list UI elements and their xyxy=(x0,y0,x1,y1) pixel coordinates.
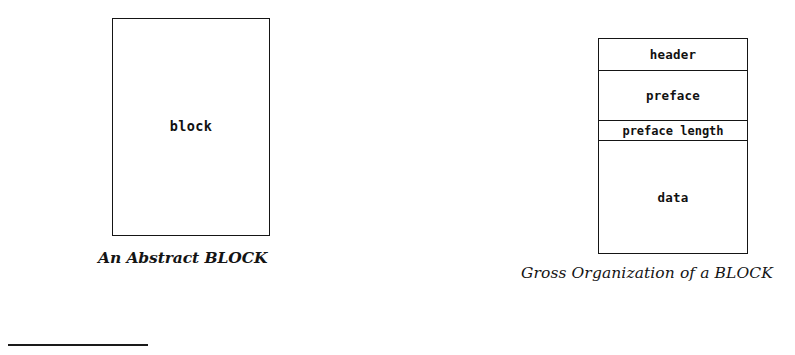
abstract-block-caption: An Abstract BLOCK xyxy=(98,250,267,266)
gross-organization-figure: header preface preface length data xyxy=(598,38,748,254)
abstract-block-figure: block xyxy=(112,18,272,236)
footnote-separator-rule xyxy=(8,344,148,346)
block-band-preface-length: preface length xyxy=(599,121,747,141)
gross-organization-box: header preface preface length data xyxy=(598,38,748,254)
block-band-preface: preface xyxy=(599,71,747,121)
abstract-block-label: block xyxy=(113,120,269,134)
gross-organization-caption: Gross Organization of a BLOCK xyxy=(521,266,773,282)
abstract-block-box: block xyxy=(112,18,270,236)
block-band-data: data xyxy=(599,141,747,253)
figure-page: block An Abstract BLOCK header preface p… xyxy=(0,0,795,355)
block-band-header: header xyxy=(599,39,747,71)
